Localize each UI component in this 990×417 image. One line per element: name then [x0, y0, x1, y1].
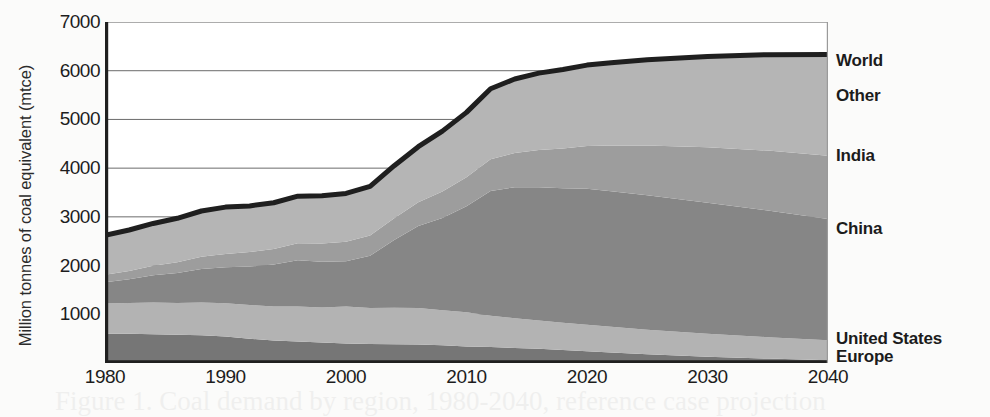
- x-tick-2010: 2010: [446, 366, 486, 388]
- legend-label-europe: Europe: [836, 347, 893, 367]
- x-tick-2000: 2000: [326, 366, 366, 388]
- x-tick-1980: 1980: [85, 366, 125, 388]
- y-tick-2000: 2000: [30, 255, 100, 277]
- y-tick-6000: 6000: [30, 60, 100, 82]
- y-axis-tick-labels: 1000200030004000500060007000: [28, 0, 100, 417]
- legend-label-other: Other: [836, 86, 880, 106]
- plot-area: [105, 22, 828, 363]
- x-tick-2040: 2040: [808, 366, 848, 388]
- legend-label-india: India: [836, 146, 875, 166]
- y-tick-1000: 1000: [30, 303, 100, 325]
- stacked-area-plot: [105, 22, 828, 363]
- legend-label-china: China: [836, 219, 882, 239]
- bleed-line-1: Figure 1. Coal demand by region, 1980-20…: [55, 386, 826, 417]
- legend-label-united-states: United States: [836, 329, 942, 349]
- x-tick-2030: 2030: [687, 366, 727, 388]
- y-tick-5000: 5000: [30, 108, 100, 130]
- x-tick-1990: 1990: [205, 366, 245, 388]
- y-tick-4000: 4000: [30, 157, 100, 179]
- y-tick-3000: 3000: [30, 206, 100, 228]
- y-tick-7000: 7000: [30, 11, 100, 33]
- x-tick-2020: 2020: [567, 366, 607, 388]
- legend-label-world: World: [836, 51, 883, 71]
- chart-root: Million tonnes of coal equivalent (mtce)…: [0, 0, 990, 417]
